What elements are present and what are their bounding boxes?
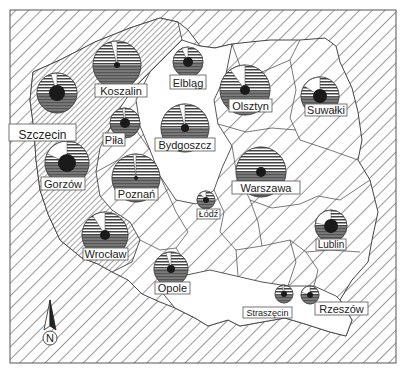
region-label-text: Poznań	[118, 188, 155, 200]
pie-łódź	[197, 191, 215, 209]
pie-lublin	[315, 210, 347, 242]
region-label-text: Warszawa	[241, 182, 293, 194]
region-label-text: Rzeszów	[319, 303, 364, 315]
region-label-text: Łódź	[199, 209, 219, 219]
pie-center-dot	[183, 57, 193, 67]
region-label-text: Olsztyn	[232, 100, 269, 112]
pie-rzeszów	[301, 286, 319, 304]
pie-center-dot	[120, 118, 130, 128]
pie-center-dot	[167, 265, 175, 273]
pie-center-dot	[58, 154, 76, 172]
label-warszawa: Warszawa	[232, 181, 300, 194]
label-wrocław: Wrocław	[83, 248, 128, 261]
region-label-text: Wrocław	[85, 248, 127, 260]
region-label-text: Lublin	[318, 239, 345, 250]
label-gorzów: Gorzów	[41, 177, 85, 190]
label-poznań: Poznań	[115, 188, 158, 201]
pie-center-dot	[203, 197, 209, 203]
label-elbląg: Elbląg	[170, 75, 206, 89]
region-label-text: Gorzów	[44, 178, 82, 190]
pie-center-dot	[114, 62, 120, 68]
pie-center-dot	[181, 124, 189, 132]
label-suwałki: Suwałki	[305, 104, 347, 117]
label-bydgoszcz: Bydgoszcz	[155, 138, 215, 151]
region-label-text: Suwałki	[307, 104, 345, 116]
pie-center-dot	[240, 85, 250, 95]
pie-center-dot	[256, 167, 266, 177]
pie-straszęcin	[275, 285, 293, 303]
label-koszalin: Koszalin	[95, 84, 147, 97]
region-label-text: Bydgoszcz	[158, 139, 211, 151]
label-olsztyn: Olsztyn	[229, 99, 272, 112]
region-label-text: Szczecin	[18, 128, 66, 142]
pie-center-dot	[324, 219, 338, 233]
region-label-text: Koszalin	[100, 85, 142, 97]
label-piła: Piła	[103, 133, 125, 146]
pie-center-dot	[307, 292, 313, 298]
pie-center-dot	[281, 291, 287, 297]
pie-elbląg	[173, 47, 203, 77]
label-lublin: Lublin	[316, 239, 346, 251]
pie-koszalin	[93, 41, 141, 89]
pie-szczecin	[37, 73, 77, 113]
label-straszęcin: Straszęcin	[243, 307, 292, 318]
label-szczecin: Szczecin	[9, 124, 76, 142]
label-łódź: Łódź	[197, 209, 220, 220]
region-label-text: Straszęcin	[246, 308, 288, 318]
pie-center-dot	[100, 230, 110, 240]
north-label: N	[46, 332, 54, 344]
region-label-text: Piła	[105, 134, 124, 146]
label-rzeszów: Rzeszów	[315, 302, 368, 315]
label-opole: Opole	[155, 282, 190, 295]
pie-center-dot	[313, 89, 327, 103]
pie-center-dot	[134, 176, 138, 180]
poland-regions-map: SzczecinKoszalinElblągOlsztynSuwałkiPiła…	[0, 0, 402, 368]
region-label-text: Opole	[158, 282, 187, 294]
pie-center-dot	[49, 85, 65, 101]
region-label-text: Elbląg	[173, 77, 204, 89]
